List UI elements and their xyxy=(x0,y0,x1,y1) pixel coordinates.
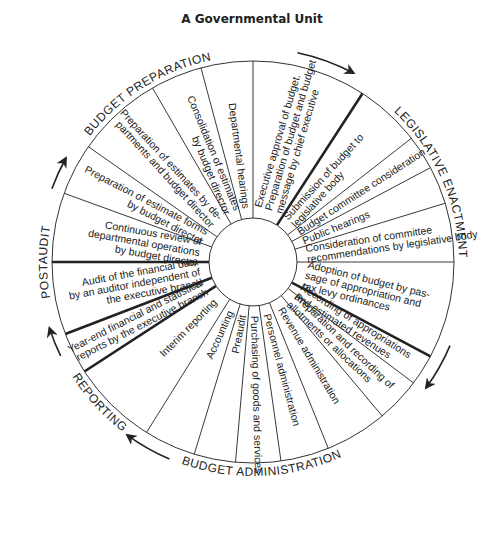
cycle-arrow-icon xyxy=(52,158,66,189)
phase-label: POSTAUDIT xyxy=(36,224,53,300)
phase-label: BUDGET PREPARATION xyxy=(81,49,212,138)
budget-cycle-wheel: Executive approval of budget.Preparation… xyxy=(0,0,504,542)
cycle-arrow-icon xyxy=(49,328,60,356)
cycle-arrow-icon xyxy=(127,435,169,459)
step-label: Purchasing of goods and services xyxy=(249,316,265,474)
inner-hub xyxy=(209,218,297,306)
step-label-line: Purchasing of goods and services xyxy=(249,316,265,474)
cycle-arrow-icon xyxy=(426,346,450,388)
phase-label: REPORTING xyxy=(70,370,130,434)
